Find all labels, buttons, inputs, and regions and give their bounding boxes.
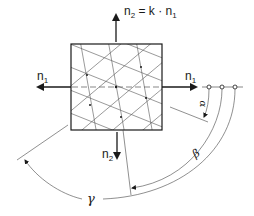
- n1-symbol: n: [185, 69, 192, 83]
- n1-subscript: 1: [172, 11, 176, 20]
- equation-text: = k · n: [135, 4, 172, 18]
- beta-ref-line: [123, 130, 131, 195]
- n1-symbol: n: [37, 69, 44, 83]
- n2-top-label: n2 = k · n1: [124, 5, 177, 20]
- n2-symbol: n: [102, 147, 109, 161]
- diagram-canvas: n2 = k · n1 n1 n1 n2 α β γ: [0, 0, 254, 216]
- n2-symbol: n: [124, 4, 131, 18]
- gamma-label: γ: [87, 192, 95, 205]
- n1-subscript: 1: [192, 76, 196, 85]
- alpha-ref-line: [170, 107, 208, 122]
- gamma-ref-line: [17, 125, 68, 160]
- n1-right-label: n1: [185, 70, 196, 85]
- n1-left-label: n1: [37, 70, 48, 85]
- mesh-nodes: [86, 66, 147, 118]
- n2-bottom-label: n2: [102, 148, 113, 163]
- gamma-arc-right: [103, 89, 235, 199]
- alpha-label: α: [198, 101, 208, 108]
- gamma-arc-left: [25, 160, 82, 199]
- n1-subscript: 1: [44, 76, 48, 85]
- diagram-svg: [0, 0, 254, 216]
- n2-subscript: 2: [109, 154, 113, 163]
